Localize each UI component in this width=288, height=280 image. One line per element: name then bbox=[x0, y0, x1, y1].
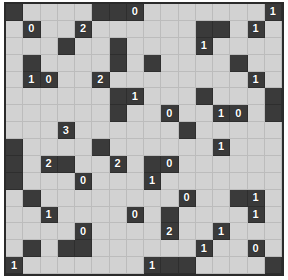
grid-cell[interactable]: 0 bbox=[161, 156, 178, 173]
grid-cell[interactable] bbox=[110, 21, 127, 38]
grid-cell[interactable] bbox=[6, 4, 23, 21]
grid-cell[interactable] bbox=[230, 21, 247, 38]
grid-cell[interactable]: 3 bbox=[58, 122, 75, 139]
grid-cell[interactable] bbox=[161, 257, 178, 274]
grid-cell[interactable] bbox=[213, 257, 230, 274]
grid-cell[interactable] bbox=[230, 4, 247, 21]
grid-cell[interactable]: 2 bbox=[110, 156, 127, 173]
grid-cell[interactable] bbox=[144, 55, 161, 72]
grid-cell[interactable] bbox=[248, 257, 265, 274]
grid-cell[interactable] bbox=[196, 55, 213, 72]
grid-cell[interactable] bbox=[213, 72, 230, 89]
grid-cell[interactable] bbox=[161, 38, 178, 55]
grid-cell[interactable] bbox=[213, 173, 230, 190]
grid-cell[interactable] bbox=[127, 156, 144, 173]
grid-cell[interactable] bbox=[58, 72, 75, 89]
grid-cell[interactable] bbox=[248, 173, 265, 190]
grid-cell[interactable] bbox=[23, 173, 40, 190]
grid-cell[interactable] bbox=[110, 55, 127, 72]
grid-cell[interactable] bbox=[92, 223, 109, 240]
grid-cell[interactable] bbox=[75, 4, 92, 21]
grid-cell[interactable] bbox=[92, 190, 109, 207]
grid-cell[interactable] bbox=[144, 21, 161, 38]
grid-cell[interactable] bbox=[230, 156, 247, 173]
grid-cell[interactable] bbox=[230, 122, 247, 139]
grid-cell[interactable] bbox=[75, 72, 92, 89]
grid-cell[interactable] bbox=[179, 240, 196, 257]
grid-cell[interactable] bbox=[179, 207, 196, 224]
grid-cell[interactable] bbox=[23, 223, 40, 240]
grid-cell[interactable] bbox=[213, 190, 230, 207]
grid-cell[interactable] bbox=[127, 105, 144, 122]
grid-cell[interactable] bbox=[161, 122, 178, 139]
grid-cell[interactable] bbox=[161, 21, 178, 38]
grid-cell[interactable] bbox=[265, 240, 282, 257]
grid-cell[interactable] bbox=[110, 173, 127, 190]
grid-cell[interactable] bbox=[75, 88, 92, 105]
grid-cell[interactable] bbox=[230, 139, 247, 156]
grid-cell[interactable] bbox=[58, 4, 75, 21]
grid-cell[interactable] bbox=[23, 105, 40, 122]
grid-cell[interactable] bbox=[265, 55, 282, 72]
grid-cell[interactable] bbox=[41, 257, 58, 274]
grid-cell[interactable] bbox=[23, 190, 40, 207]
grid-cell[interactable] bbox=[6, 105, 23, 122]
grid-cell[interactable]: 1 bbox=[196, 38, 213, 55]
grid-cell[interactable] bbox=[196, 223, 213, 240]
grid-cell[interactable] bbox=[127, 240, 144, 257]
puzzle-grid[interactable]: 010211102110103122001011010211011 bbox=[6, 4, 282, 274]
grid-cell[interactable] bbox=[75, 38, 92, 55]
grid-cell[interactable] bbox=[230, 173, 247, 190]
grid-cell[interactable] bbox=[179, 4, 196, 21]
grid-cell[interactable] bbox=[75, 139, 92, 156]
grid-cell[interactable] bbox=[213, 55, 230, 72]
grid-cell[interactable] bbox=[196, 156, 213, 173]
grid-cell[interactable] bbox=[248, 88, 265, 105]
grid-cell[interactable] bbox=[6, 190, 23, 207]
grid-cell[interactable] bbox=[58, 21, 75, 38]
grid-cell[interactable] bbox=[248, 223, 265, 240]
grid-cell[interactable] bbox=[6, 38, 23, 55]
grid-cell[interactable] bbox=[248, 105, 265, 122]
grid-cell[interactable] bbox=[6, 21, 23, 38]
grid-cell[interactable] bbox=[248, 122, 265, 139]
grid-cell[interactable] bbox=[265, 21, 282, 38]
grid-cell[interactable] bbox=[230, 223, 247, 240]
grid-cell[interactable] bbox=[6, 240, 23, 257]
grid-cell[interactable] bbox=[230, 88, 247, 105]
grid-cell[interactable] bbox=[161, 72, 178, 89]
grid-cell[interactable]: 0 bbox=[23, 21, 40, 38]
grid-cell[interactable] bbox=[127, 223, 144, 240]
grid-cell[interactable] bbox=[75, 240, 92, 257]
grid-cell[interactable] bbox=[92, 4, 109, 21]
grid-cell[interactable] bbox=[248, 38, 265, 55]
grid-cell[interactable] bbox=[110, 207, 127, 224]
grid-cell[interactable]: 1 bbox=[144, 173, 161, 190]
grid-cell[interactable]: 0 bbox=[75, 223, 92, 240]
grid-cell[interactable] bbox=[23, 240, 40, 257]
grid-cell[interactable] bbox=[196, 105, 213, 122]
grid-cell[interactable] bbox=[41, 122, 58, 139]
grid-cell[interactable] bbox=[110, 257, 127, 274]
grid-cell[interactable] bbox=[144, 72, 161, 89]
grid-cell[interactable] bbox=[161, 55, 178, 72]
grid-cell[interactable] bbox=[265, 139, 282, 156]
grid-cell[interactable]: 0 bbox=[248, 240, 265, 257]
grid-cell[interactable] bbox=[92, 207, 109, 224]
grid-cell[interactable] bbox=[58, 257, 75, 274]
grid-cell[interactable] bbox=[213, 88, 230, 105]
grid-cell[interactable]: 1 bbox=[213, 223, 230, 240]
grid-cell[interactable]: 2 bbox=[161, 223, 178, 240]
grid-cell[interactable] bbox=[230, 190, 247, 207]
grid-cell[interactable] bbox=[196, 72, 213, 89]
grid-cell[interactable] bbox=[161, 139, 178, 156]
grid-cell[interactable] bbox=[179, 105, 196, 122]
grid-cell[interactable] bbox=[127, 173, 144, 190]
grid-cell[interactable] bbox=[92, 139, 109, 156]
grid-cell[interactable] bbox=[41, 88, 58, 105]
grid-cell[interactable] bbox=[110, 223, 127, 240]
grid-cell[interactable] bbox=[127, 21, 144, 38]
grid-cell[interactable] bbox=[23, 207, 40, 224]
grid-cell[interactable] bbox=[161, 240, 178, 257]
grid-cell[interactable] bbox=[110, 122, 127, 139]
